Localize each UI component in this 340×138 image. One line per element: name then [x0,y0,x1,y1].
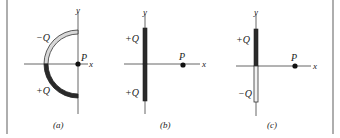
panel-a-caption: (a) [53,120,64,130]
panel-b-point-p-label: P [178,51,185,62]
panel-c-upper-charge-label: +Q [236,34,251,45]
panel-b-lower-charge-label: +Q [125,87,140,98]
panel-c: y x +Q −Q P (c) [236,7,317,130]
panel-a-positive-charge-label: +Q [36,85,51,96]
panel-c-y-label: y [253,7,258,17]
panel-c-point-p-label: P [290,52,297,63]
panel-c-caption: (c) [267,120,277,130]
panel-c-lower-rod [254,66,258,102]
panel-c-lower-charge-label: −Q [238,88,253,99]
panel-b-caption: (b) [160,120,171,130]
panel-a-negative-charge-label: −Q [36,32,51,43]
panel-a-y-label: y [75,5,80,15]
panel-b-lower-rod [143,64,147,101]
panel-b-x-label: x [201,59,206,69]
panel-b-point-p-dot [180,62,185,67]
panel-c-point-p-dot [292,63,297,68]
panel-a: y x −Q +Q P (a) [24,5,93,130]
panel-b: y x +Q +Q P (b) [124,7,206,130]
panel-a-point-p-dot [75,61,80,66]
charge-distribution-figure: y x −Q +Q P (a) y x +Q +Q [0,0,340,138]
panel-a-point-p-label: P [80,52,87,63]
panel-b-upper-rod [143,28,147,64]
panel-c-upper-rod [254,29,258,66]
panel-a-x-label: x [88,59,93,69]
panel-b-y-label: y [142,7,147,17]
panel-c-x-label: x [312,61,317,71]
panel-b-upper-charge-label: +Q [125,33,140,44]
